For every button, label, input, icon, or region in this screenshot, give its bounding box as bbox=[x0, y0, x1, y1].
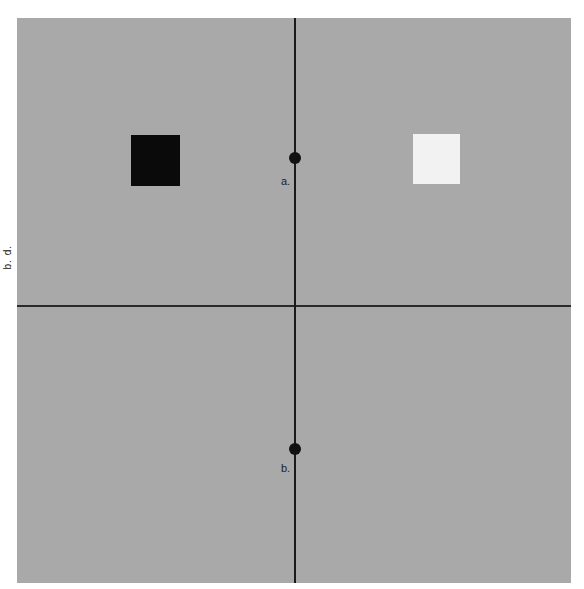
white-square bbox=[413, 134, 460, 184]
black-square bbox=[131, 135, 180, 186]
side-caption: b. d. bbox=[2, 245, 13, 269]
fixation-point-b bbox=[289, 443, 301, 455]
fixation-point-a bbox=[289, 152, 301, 164]
vertical-axis-line bbox=[294, 18, 296, 583]
label-b: b. bbox=[281, 462, 290, 474]
label-a: a. bbox=[281, 175, 290, 187]
